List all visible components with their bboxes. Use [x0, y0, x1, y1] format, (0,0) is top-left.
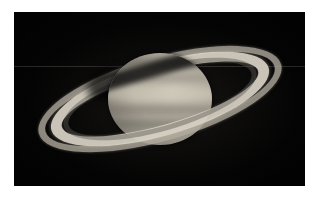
- saturn-planet-image: [14, 12, 305, 186]
- astrophoto-frame: [14, 12, 305, 186]
- photo-mat: [0, 0, 316, 199]
